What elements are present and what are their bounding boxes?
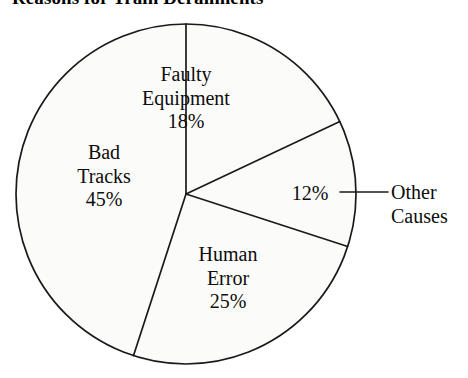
slice-label-faulty-equipment-line1: Faulty [111, 63, 261, 87]
slice-label-other-causes: Other Causes [391, 181, 467, 228]
slice-value-other-causes-text: 12% [279, 182, 341, 206]
slice-value-bad-tracks: 45% [39, 188, 169, 212]
slice-label-human-error: Human Error 25% [163, 243, 293, 314]
slice-value-faulty-equipment: 18% [111, 110, 261, 134]
slice-label-bad-tracks: Bad Tracks 45% [39, 141, 169, 212]
slice-label-faulty-equipment: Faulty Equipment 18% [111, 63, 261, 134]
slice-value-other-causes: 12% [279, 182, 341, 206]
slice-label-human-error-line1: Human [163, 243, 293, 267]
slice-label-bad-tracks-line2: Tracks [39, 165, 169, 189]
slice-label-human-error-line2: Error [163, 267, 293, 291]
slice-label-other-causes-line1: Other [391, 181, 467, 205]
slice-label-faulty-equipment-line2: Equipment [111, 87, 261, 111]
slice-label-bad-tracks-line1: Bad [39, 141, 169, 165]
slice-label-other-causes-line2: Causes [391, 205, 467, 229]
pie-chart-figure: Reasons for Train Derailments Faulty Equ… [0, 0, 468, 378]
slice-value-human-error: 25% [163, 290, 293, 314]
